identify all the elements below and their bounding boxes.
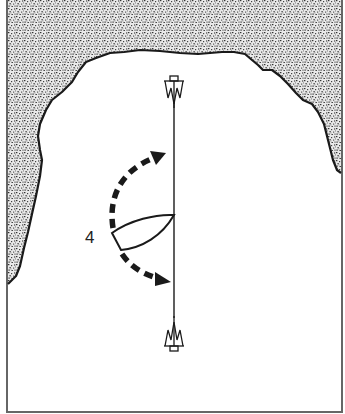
sailing-diagram — [0, 0, 345, 414]
position-label: 4 — [85, 228, 94, 248]
